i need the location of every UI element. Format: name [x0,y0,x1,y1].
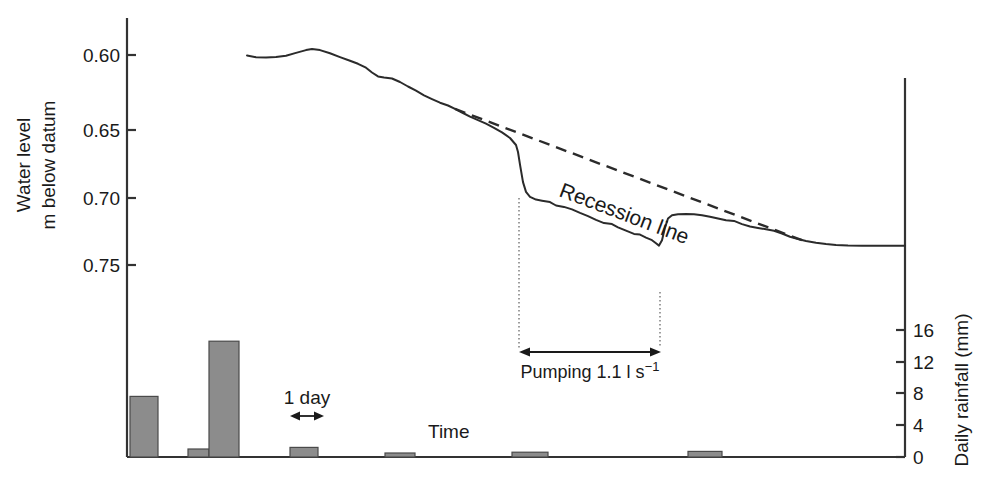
recession-line-label: Recession line [557,178,693,248]
left-axis-title-line1: Water level [13,118,34,212]
one-day-arrow-head-left [290,412,300,421]
rain-bar-day6 [290,447,318,457]
left-tick-label-070: 0.70 [83,188,120,209]
rain-bar-day12 [688,451,722,457]
right-axis: 16 12 8 4 0 Daily rainfall (mm) [896,78,972,468]
hydrograph-figure: 0.60 0.65 0.70 0.75 Water level m below … [0,0,990,491]
one-day-scale-group: 1 day [284,387,331,421]
right-tick-label-16: 16 [913,320,934,341]
chart-canvas: 0.60 0.65 0.70 0.75 Water level m below … [0,0,990,491]
right-tick-label-12: 12 [913,352,934,373]
left-axis-title-line2: m below datum [38,101,59,230]
right-tick-label-8: 8 [913,383,924,404]
left-tick-label-065: 0.65 [83,120,120,141]
rain-bar-day1 [130,396,158,457]
pumping-label: Pumping 1.1 l s−1 [521,359,660,382]
rain-bar-day8 [385,453,415,457]
right-axis-title: Daily rainfall (mm) [951,313,972,466]
left-tick-label-075: 0.75 [83,255,120,276]
rain-bar-day10 [512,452,548,457]
right-tick-label-4: 4 [913,415,924,436]
one-day-arrow-head-right [314,412,324,421]
water-level-line [247,49,905,246]
right-tick-label-0: 0 [913,447,924,468]
left-axis: 0.60 0.65 0.70 0.75 Water level m below … [13,18,136,457]
one-day-label: 1 day [284,387,331,408]
rain-bar-day4 [209,341,239,457]
rainfall-bars [130,341,722,457]
pumping-label-text: Pumping 1.1 l s [521,362,645,382]
pumping-arrow-head-right [650,348,661,357]
pumping-label-superscript: −1 [645,359,660,374]
left-tick-label-060: 0.60 [83,45,120,66]
pumping-arrow-head-left [519,348,530,357]
rain-bar-day3 [188,449,209,457]
time-axis-label: Time [428,421,470,442]
